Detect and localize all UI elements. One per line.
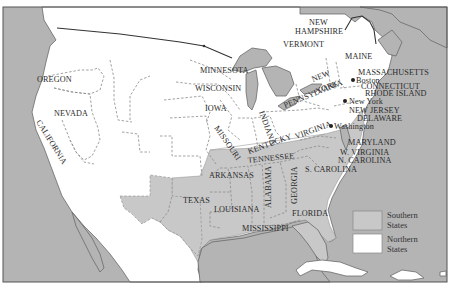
legend-northern-line1: Northern (387, 234, 418, 244)
label-alabama: ALABAMA (264, 166, 273, 208)
label-florida: FLORIDA (292, 209, 328, 218)
label-s-carolina: S. CAROLINA (305, 165, 357, 174)
label-wisconsin: WISCONSIN (195, 84, 241, 93)
puerto-rico (440, 271, 446, 276)
label-louisiana: LOUISIANA (214, 205, 259, 214)
boston-dot (351, 78, 355, 82)
label-new-york-city: New York (349, 97, 384, 106)
label-iowa: IOWA (205, 104, 227, 113)
label-washington: Washington (334, 122, 374, 131)
label-arkansas: ARKANSAS (209, 171, 254, 180)
label-nevada: NEVADA (54, 109, 88, 118)
label-new-hampshire-1: NEW (309, 18, 328, 27)
label-vermont: VERMONT (283, 40, 324, 49)
label-maryland: MARYLAND (348, 138, 396, 147)
legend-swatch-southern (353, 211, 382, 230)
label-w-virginia: W. VIRGINIA (340, 148, 389, 157)
label-georgia: GEORGIA (290, 166, 299, 204)
new-york-dot (343, 99, 347, 103)
legend-northern-line2: States (387, 244, 407, 254)
label-new-hampshire-2: HAMPSHIRE (295, 27, 343, 36)
label-oregon: OREGON (37, 75, 72, 84)
label-boston: Boston (356, 76, 380, 85)
legend-southern-line2: States (387, 220, 407, 230)
label-new-jersey: NEW JERSEY (349, 106, 400, 115)
legend-southern-line1: Southern (387, 210, 418, 220)
us-civil-war-map: OREGON NEVADA CALIFORNIA MINNESOTA WISCO… (0, 0, 453, 287)
label-n-carolina: N. CAROLINA (338, 156, 391, 165)
washington-dot (329, 124, 333, 128)
label-minnesota-actual: MINNESOTA (200, 66, 248, 75)
label-mississippi: MISSISSIPPI (242, 224, 289, 233)
legend-swatch-northern (353, 234, 382, 253)
label-texas: TEXAS (183, 196, 210, 205)
label-maine: MAINE (345, 52, 372, 61)
